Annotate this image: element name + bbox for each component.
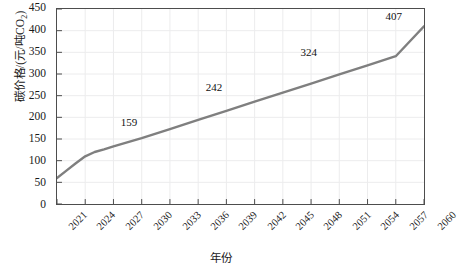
x-tick-label: 2045: [294, 210, 316, 232]
x-tick-label: 2051: [351, 210, 373, 232]
data-point-label: 242: [206, 82, 223, 93]
x-tick-label: 2024: [96, 210, 118, 232]
x-tick-label: 2027: [124, 210, 146, 232]
y-tick-label: 250: [0, 90, 46, 102]
y-tick-label: 50: [0, 177, 46, 189]
x-tick-label: 2054: [379, 210, 401, 232]
y-axis-title-subscript: 2: [20, 14, 29, 18]
y-tick-label: 450: [0, 2, 46, 14]
y-tick-label: 200: [0, 112, 46, 124]
x-tick-label: 2057: [408, 210, 430, 232]
data-point-label: 407: [386, 11, 403, 22]
data-point-label: 324: [300, 47, 317, 58]
y-tick-label: 0: [0, 199, 46, 211]
x-axis-title: 年份: [0, 249, 443, 265]
x-tick-label: 2021: [67, 210, 89, 232]
y-tick-label: 300: [0, 68, 46, 80]
x-tick-label: 2030: [152, 210, 174, 232]
data-point-label: 159: [121, 117, 138, 128]
y-tick-label: 400: [0, 24, 46, 36]
y-tick-label: 100: [0, 155, 46, 167]
y-tick-label: 150: [0, 134, 46, 146]
x-tick-label: 2039: [237, 210, 259, 232]
x-tick-label: 2033: [181, 210, 203, 232]
data-line: [57, 9, 424, 204]
y-tick-label: 350: [0, 46, 46, 58]
x-tick-label: 2036: [209, 210, 231, 232]
plot-area: [56, 8, 425, 205]
x-tick-label: 2042: [266, 210, 288, 232]
x-tick-label: 2048: [323, 210, 345, 232]
x-tick-label: 2060: [436, 210, 458, 232]
